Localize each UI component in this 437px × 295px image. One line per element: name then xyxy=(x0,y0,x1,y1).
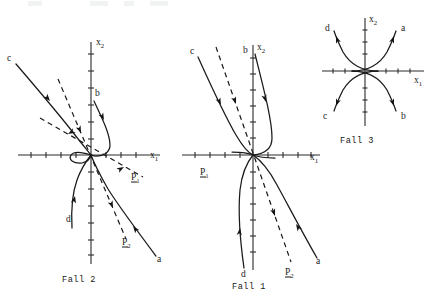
trajectory-b-arrow xyxy=(389,98,396,107)
trajectory-c-arrow xyxy=(334,98,341,107)
trajectory-label-b: b xyxy=(401,111,406,121)
eigen-label-p1: P1 xyxy=(131,172,140,184)
trajectory-b xyxy=(352,71,396,111)
trajectory-label-c: c xyxy=(7,53,11,63)
trajectory-c xyxy=(16,64,91,155)
trajectory-label-a: a xyxy=(157,254,162,264)
trajectory-label-c: c xyxy=(190,46,194,56)
trajectory-label-c: c xyxy=(323,111,327,121)
x2-axis-label: x2 xyxy=(257,42,266,54)
eigen-p2-arrow-upper xyxy=(76,125,84,134)
eigen-p2-arrow-lower xyxy=(270,208,277,217)
trajectory-c xyxy=(198,57,253,155)
trajectory-a-arrow xyxy=(389,35,396,44)
trajectory-a xyxy=(253,155,317,258)
panel-fall-1: c b d a x1 x2 P1 P2 Fall 1 xyxy=(182,42,321,292)
x2-axis-label: x2 xyxy=(369,14,378,26)
eigen-label-p1: P1 xyxy=(200,167,209,179)
panel-caption-fall-3: Fall 3 xyxy=(340,136,374,146)
trajectory-b xyxy=(253,54,272,155)
x2-axis-label: x2 xyxy=(96,37,105,49)
trajectory-b xyxy=(91,101,110,156)
phase-portrait-figure: c b d a x1 x2 P1 P2 Fall 2 xyxy=(0,0,437,295)
eigen-label-p2: P2 xyxy=(285,267,294,279)
trajectory-a xyxy=(352,31,396,71)
eigen-label-p2: P2 xyxy=(122,237,131,249)
panel-caption-fall-2: Fall 2 xyxy=(62,275,96,285)
trajectory-d-arrow xyxy=(334,35,341,44)
trajectory-c xyxy=(334,71,378,111)
trajectory-label-a: a xyxy=(401,23,406,33)
panel-fall-3: d a c b x1 x2 Fall 3 xyxy=(322,14,424,146)
trajectory-d xyxy=(334,31,378,71)
panel-caption-fall-1: Fall 1 xyxy=(232,282,266,292)
origin-hook-left xyxy=(70,152,91,163)
panel-fall-2: c b d a x1 x2 P1 P2 Fall 2 xyxy=(7,37,162,285)
x1-axis-label: x1 xyxy=(414,75,422,87)
trajectory-label-b: b xyxy=(243,45,248,55)
x1-axis-label: x1 xyxy=(310,152,318,164)
eigen-p2-arrow-upper xyxy=(231,96,238,105)
x1-axis-label: x1 xyxy=(150,150,158,162)
trajectory-label-d: d xyxy=(66,214,71,224)
eigen-p2-arrow-lower xyxy=(108,200,116,209)
trajectory-d xyxy=(72,155,91,228)
trajectory-label-a: a xyxy=(316,256,321,266)
trajectory-label-d: d xyxy=(325,23,330,33)
trajectory-label-d: d xyxy=(241,269,246,279)
trajectory-label-b: b xyxy=(95,88,100,98)
eigen-p1-arrow-out xyxy=(116,165,125,173)
